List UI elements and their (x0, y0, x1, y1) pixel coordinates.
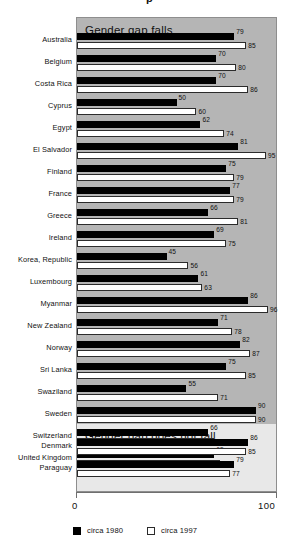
bar-pair: 7985 (77, 31, 276, 53)
bar-value-circa-1980: 90 (258, 402, 266, 409)
bar-row: Myanmar8696 (0, 295, 299, 317)
bar-value-circa-1997: 86 (250, 86, 258, 93)
category-label: Luxembourg (0, 277, 72, 286)
bar-circa-1997 (77, 448, 246, 455)
bar-pair: 7579 (77, 163, 276, 185)
bar-pair: 6975 (77, 229, 276, 251)
category-label: New Zealand (0, 321, 72, 330)
bar-value-circa-1980: 79 (236, 456, 244, 463)
x-axis-tick-0 (76, 492, 77, 498)
bar-row: Sweden9090 (0, 405, 299, 427)
chart-container: p Gender gap falls Gender gap does not f… (0, 0, 299, 556)
legend-swatch-filled-square (73, 527, 81, 535)
bar-value-circa-1980: 81 (240, 138, 248, 145)
bar-circa-1980 (77, 363, 226, 370)
legend-label-circa-1980: circa 1980 (87, 526, 123, 535)
category-label: Costa Rica (0, 79, 72, 88)
bar-value-circa-1997: 56 (190, 262, 198, 269)
bar-circa-1997 (77, 284, 202, 291)
category-label: Ireland (0, 233, 72, 242)
bar-value-circa-1997: 87 (252, 350, 260, 357)
bar-value-circa-1980: 70 (218, 72, 226, 79)
bar-row: Denmark8685 (0, 437, 299, 459)
bar-pair: 7086 (77, 75, 276, 97)
category-label: Swaziland (0, 387, 72, 396)
clipped-caption-fragment (0, 546, 299, 556)
bar-circa-1980 (77, 297, 248, 304)
category-label: Australia (0, 35, 72, 44)
clipped-title-text: p (0, 0, 299, 4)
bar-value-circa-1980: 62 (202, 116, 210, 123)
bar-circa-1997 (77, 218, 238, 225)
bar-row: Paraguay7977 (0, 459, 299, 481)
bar-value-circa-1980: 71 (220, 314, 228, 321)
bar-circa-1997 (77, 470, 230, 477)
bar-circa-1980 (77, 77, 216, 84)
bar-pair: 7779 (77, 185, 276, 207)
x-axis-tick-100 (276, 492, 277, 498)
category-label: Finland (0, 167, 72, 176)
bar-rows-layer: Australia7985Belgium7080Costa Rica7086Cy… (0, 0, 299, 556)
bar-circa-1980 (77, 187, 230, 194)
bar-circa-1980 (77, 385, 186, 392)
bar-row: Ireland6975 (0, 229, 299, 251)
bar-circa-1997 (77, 86, 248, 93)
bar-value-circa-1997: 96 (270, 306, 278, 313)
bar-circa-1997 (77, 64, 236, 71)
bar-row: Norway8287 (0, 339, 299, 361)
bar-pair: 8696 (77, 295, 276, 317)
bar-circa-1980 (77, 439, 248, 446)
bar-circa-1997 (77, 108, 196, 115)
bar-value-circa-1997: 95 (268, 152, 276, 159)
bar-circa-1997 (77, 350, 250, 357)
bar-circa-1980 (77, 407, 256, 414)
bar-pair: 5060 (77, 97, 276, 119)
bar-row: France7779 (0, 185, 299, 207)
clipped-title-fragment: p (0, 0, 299, 13)
bar-row: Finland7579 (0, 163, 299, 185)
bar-circa-1980 (77, 253, 167, 260)
bar-circa-1980 (77, 429, 208, 436)
bar-value-circa-1997: 71 (220, 394, 228, 401)
bar-value-circa-1980: 79 (236, 28, 244, 35)
category-label: Greece (0, 211, 72, 220)
bar-value-circa-1997: 85 (248, 448, 256, 455)
bar-value-circa-1997: 74 (226, 130, 234, 137)
bar-circa-1997 (77, 42, 246, 49)
legend-item-circa-1980: circa 1980 (73, 526, 123, 535)
bar-row: Sri Lanka7585 (0, 361, 299, 383)
bar-row: New Zealand7178 (0, 317, 299, 339)
bar-circa-1997 (77, 306, 268, 313)
bar-value-circa-1980: 75 (228, 160, 236, 167)
bar-pair: 6681 (77, 207, 276, 229)
legend-swatch-outline-square (147, 527, 155, 535)
chart-legend: circa 1980 circa 1997 (73, 526, 197, 535)
bar-circa-1997 (77, 328, 232, 335)
bar-value-circa-1980: 82 (242, 336, 250, 343)
bar-circa-1997 (77, 262, 188, 269)
bar-value-circa-1997: 77 (232, 470, 240, 477)
bar-value-circa-1997: 63 (204, 284, 212, 291)
bar-value-circa-1980: 77 (232, 182, 240, 189)
category-label: Sweden (0, 409, 72, 418)
bar-pair: 6163 (77, 273, 276, 295)
bar-row: Korea, Republic4556 (0, 251, 299, 273)
category-label: Belgium (0, 57, 72, 66)
bar-circa-1980 (77, 143, 238, 150)
bar-circa-1980 (77, 99, 177, 106)
bar-pair: 8195 (77, 141, 276, 163)
bar-row: Cyprus5060 (0, 97, 299, 119)
bar-circa-1997 (77, 152, 266, 159)
bar-circa-1997 (77, 174, 234, 181)
bar-circa-1997 (77, 130, 224, 137)
bar-value-circa-1980: 66 (210, 204, 218, 211)
bar-pair: 9090 (77, 405, 276, 427)
bar-pair: 7585 (77, 361, 276, 383)
bar-pair: 8287 (77, 339, 276, 361)
bar-circa-1997 (77, 240, 226, 247)
bar-value-circa-1980: 61 (200, 270, 208, 277)
bar-circa-1997 (77, 196, 234, 203)
bar-value-circa-1997: 60 (198, 108, 206, 115)
bar-circa-1997 (77, 394, 218, 401)
bar-pair: 7080 (77, 53, 276, 75)
